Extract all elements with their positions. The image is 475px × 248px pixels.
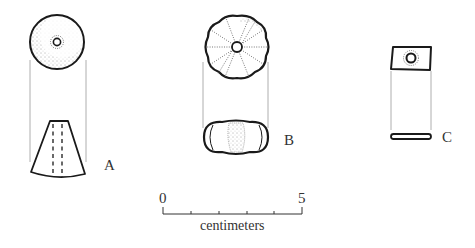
artifact-c [391, 47, 431, 139]
artifact-label-b: B [284, 133, 294, 148]
artifact-c-top-view [391, 47, 431, 70]
artifact-c-side-view [391, 134, 431, 139]
scale-start-label: 0 [159, 191, 167, 206]
scale-unit-label: centimeters [200, 219, 265, 233]
artifact-drawing [0, 0, 475, 248]
artifact-a-top-view [30, 15, 84, 69]
artifact-a-side-view [31, 121, 85, 177]
artifact-label-a: A [104, 158, 115, 173]
artifact-b-top-view [206, 16, 269, 79]
artifact-b [203, 16, 269, 154]
projection-lines-c [391, 71, 431, 130]
artifact-label-c: C [442, 130, 452, 145]
scale-end-label: 5 [298, 191, 306, 206]
artifact-b-side-view [204, 121, 268, 155]
artifact-a [30, 15, 86, 177]
scale-bar [163, 207, 302, 214]
